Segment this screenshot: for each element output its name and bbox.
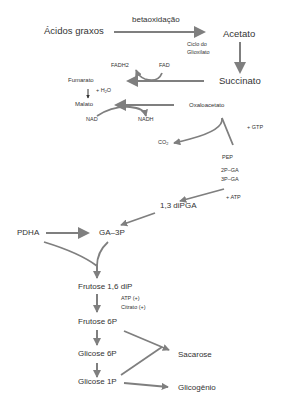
cofactor-nadh: NADH — [138, 117, 154, 123]
cofactor-h2o: + H2O — [96, 88, 111, 94]
node-frutose-1-6-dip: Frutose 1,6 diP — [78, 283, 132, 291]
node-ga-3p: GA–3P — [99, 229, 125, 237]
node-glicose-6p: Glicose 6P — [78, 350, 117, 358]
node-3p-ga: 3P–GA — [221, 177, 239, 183]
node-pdha: PDHA — [17, 229, 39, 237]
arrow-glicose1p-glicogenio — [124, 383, 168, 387]
pathway-arrows — [0, 0, 281, 406]
node-glicose-1p: Glicose 1P — [78, 378, 117, 386]
product-co2: CO2 — [158, 140, 168, 146]
arrow-nad-nadh — [97, 107, 146, 116]
cofactor-fad: FAD — [159, 63, 170, 69]
arrow-dipga-ga3p — [121, 213, 155, 225]
co2-c: CO — [158, 139, 166, 145]
node-fumarato: Fumarato — [68, 77, 94, 83]
node-1-3-dipga: 1,3 diPGA — [160, 202, 196, 210]
arrow-fad-fadh2 — [136, 70, 162, 80]
arrow-glicose1p-sacarose — [121, 347, 162, 375]
node-sacarose: Sacarose — [178, 351, 212, 359]
label-glioxilato: Glioxilato — [187, 50, 210, 56]
cofactor-nad: NAD — [86, 117, 98, 123]
node-succinato: Succinato — [219, 76, 261, 86]
node-glicogenio: Glicogênio — [178, 384, 216, 392]
co2-subscript: 2 — [166, 142, 168, 146]
node-pep: PEP — [222, 155, 233, 161]
arrow-3pga-dipga — [180, 189, 224, 201]
node-2p-ga: 2P–GA — [221, 168, 239, 174]
arrow-frutose6p-sacarose — [124, 331, 169, 350]
arrow-pdha-merge — [44, 242, 97, 266]
h2o-plus: + H — [96, 87, 105, 93]
regulator-atp: ATP (+) — [121, 296, 140, 302]
arrow-decarboxylation-co2 — [174, 118, 222, 143]
regulator-citrato: Citrato (+) — [121, 305, 146, 311]
cofactor-atp: + ATP — [226, 195, 241, 201]
label-betaoxidacao: betaoxidação — [132, 16, 180, 24]
node-frutose-6p: Frutose 6P — [78, 318, 117, 326]
arrow-ga3p-merge — [97, 242, 108, 266]
cofactor-gtp: + GTP — [247, 125, 263, 131]
node-acetato: Acetato — [223, 29, 255, 39]
arrow-oxaloacetato-pep — [222, 118, 233, 145]
cofactor-fadh2: FADH2 — [111, 63, 129, 69]
h2o-o: O — [107, 87, 111, 93]
node-malato: Malato — [75, 101, 93, 107]
node-acidos-graxos: Ácidos graxos — [44, 26, 104, 36]
label-ciclo-do: Ciclo do — [187, 42, 207, 48]
node-oxaloacetato: Oxaloacetato — [189, 102, 224, 108]
